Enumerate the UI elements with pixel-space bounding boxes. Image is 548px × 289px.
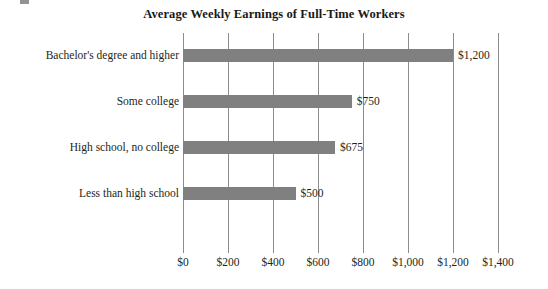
gridline [183, 33, 184, 243]
x-axis-tick-label: $0 [177, 255, 189, 269]
bar [183, 187, 296, 200]
x-axis-tick-label: $600 [307, 255, 330, 269]
x-axis-tick-label: $200 [217, 255, 240, 269]
axis-tick [318, 243, 319, 253]
axis-tick [498, 243, 499, 253]
bar [183, 49, 453, 62]
category-label: High school, no college [0, 141, 179, 154]
axis-tick [273, 243, 274, 253]
bar-value-label: $675 [340, 141, 363, 154]
plot-area [183, 33, 498, 243]
bar-value-label: $500 [301, 187, 324, 200]
bar-value-label: $750 [357, 95, 380, 108]
category-label: Less than high school [0, 187, 179, 200]
chart-title: Average Weekly Earnings of Full-Time Wor… [0, 7, 548, 22]
axis-tick [408, 243, 409, 253]
gridline [498, 33, 499, 243]
crop-artifact [20, 0, 29, 4]
gridline [363, 33, 364, 243]
bar-value-label: $1,200 [458, 49, 490, 62]
axis-tick [453, 243, 454, 253]
gridline [318, 33, 319, 243]
bar [183, 141, 335, 154]
bar [183, 95, 352, 108]
axis-tick [183, 243, 184, 253]
gridline [273, 33, 274, 243]
x-axis-tick-label: $1,400 [482, 255, 514, 269]
category-label: Bachelor's degree and higher [0, 49, 179, 62]
category-label: Some college [0, 95, 179, 108]
x-axis-tick-label: $800 [352, 255, 375, 269]
axis-tick [363, 243, 364, 253]
gridline [228, 33, 229, 243]
axis-tick [228, 243, 229, 253]
chart-container: Average Weekly Earnings of Full-Time Wor… [0, 0, 548, 289]
x-axis-tick-label: $1,200 [437, 255, 469, 269]
x-axis-tick-label: $400 [262, 255, 285, 269]
x-axis-tick-label: $1,000 [392, 255, 424, 269]
gridline [408, 33, 409, 243]
gridline [453, 33, 454, 243]
